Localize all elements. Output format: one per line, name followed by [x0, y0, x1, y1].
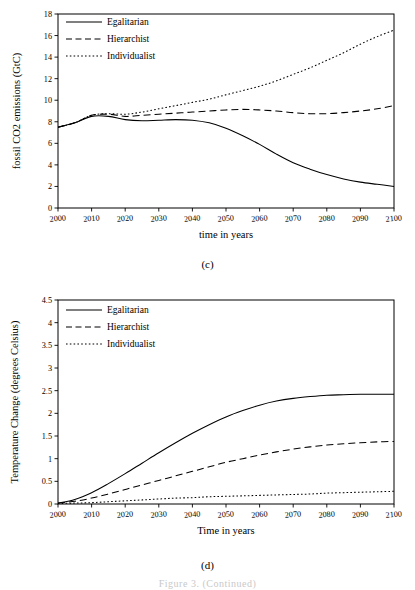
chart-svg-d: 00.511.522.533.544.520002010202020302040…: [0, 288, 415, 556]
y-tick-label: 0: [48, 204, 52, 213]
y-tick-label: 3.5: [42, 341, 52, 350]
x-axis-title: Time in years: [197, 525, 254, 536]
series-line-individualist: [58, 491, 394, 503]
panel-caption-c: (c): [0, 258, 415, 270]
y-tick-label: 0: [48, 500, 52, 509]
y-axis-title: Temperature Change (degrees Celsius): [9, 320, 21, 483]
x-tick-label: 2060: [251, 509, 268, 519]
figure-container: 0246810121416182000201020202030204020502…: [0, 0, 415, 590]
x-tick-label: 2040: [184, 213, 201, 223]
x-tick-label: 2010: [83, 213, 100, 223]
y-tick-label: 0.5: [42, 477, 52, 486]
legend-label-individualist: Individualist: [107, 339, 155, 349]
x-tick-label: 2070: [284, 509, 301, 519]
series-line-hierarchist: [58, 441, 394, 503]
x-axis-title: time in years: [199, 229, 253, 240]
y-tick-label: 16: [44, 32, 52, 41]
y-axis-title: fossil CO2 emissions (GtC): [11, 52, 23, 169]
legend-label-individualist: Individualist: [107, 51, 155, 61]
y-tick-label: 1.5: [42, 432, 52, 441]
x-tick-label: 2000: [49, 509, 66, 519]
y-tick-label: 14: [44, 53, 52, 62]
x-tick-label: 2000: [49, 213, 66, 223]
figure-bottom-caption: Figure 3. (Continued): [0, 578, 415, 589]
chart-legend: EgalitarianHierarchistIndividualist: [66, 305, 155, 349]
series-line-egalitarian: [58, 394, 394, 503]
x-tick-label: 2070: [284, 213, 301, 223]
y-tick-label: 4: [48, 161, 52, 170]
x-tick-label: 2040: [184, 509, 201, 519]
x-tick-label: 2030: [150, 509, 167, 519]
y-tick-label: 2: [48, 182, 52, 191]
x-tick-label: 2080: [318, 509, 335, 519]
legend-label-hierarchist: Hierarchist: [107, 34, 150, 44]
chart-legend: EgalitarianHierarchistIndividualist: [66, 17, 155, 61]
x-tick-label: 2050: [217, 213, 234, 223]
y-tick-label: 3: [48, 364, 52, 373]
x-tick-label: 2090: [352, 509, 369, 519]
x-tick-label: 2020: [116, 509, 133, 519]
legend-label-egalitarian: Egalitarian: [107, 305, 149, 315]
chart-panel-d: 00.511.522.533.544.520002010202020302040…: [0, 288, 415, 590]
x-tick-label: 2100: [385, 509, 402, 519]
y-tick-label: 10: [44, 96, 52, 105]
y-tick-label: 4: [48, 319, 52, 328]
y-tick-label: 12: [44, 75, 52, 84]
y-tick-label: 4.5: [42, 296, 52, 305]
y-tick-label: 2: [48, 409, 52, 418]
y-tick-label: 1: [48, 455, 52, 464]
chart-svg-c: 0246810121416182000201020202030204020502…: [0, 0, 415, 258]
legend-label-hierarchist: Hierarchist: [107, 322, 150, 332]
x-tick-label: 2090: [352, 213, 369, 223]
y-tick-label: 18: [44, 10, 52, 19]
x-tick-label: 2020: [116, 213, 133, 223]
x-tick-label: 2060: [251, 213, 268, 223]
y-tick-label: 8: [48, 118, 52, 127]
panel-caption-d: (d): [0, 559, 415, 571]
x-tick-label: 2080: [318, 213, 335, 223]
x-tick-label: 2100: [385, 213, 402, 223]
y-tick-label: 6: [48, 139, 52, 148]
x-tick-label: 2010: [83, 509, 100, 519]
y-tick-label: 2.5: [42, 387, 52, 396]
chart-panel-c: 0246810121416182000201020202030204020502…: [0, 0, 415, 282]
series-line-egalitarian: [58, 116, 394, 187]
x-tick-label: 2030: [150, 213, 167, 223]
x-tick-label: 2050: [217, 509, 234, 519]
legend-label-egalitarian: Egalitarian: [107, 17, 149, 27]
